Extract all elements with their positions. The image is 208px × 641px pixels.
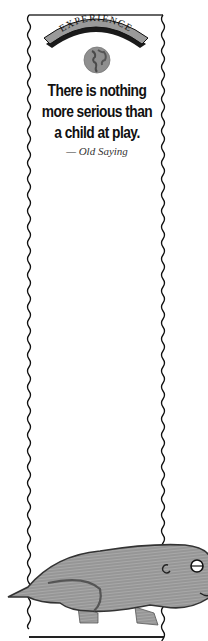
guinea-pig-illustration <box>0 515 208 635</box>
quote-line: There is nothing <box>39 80 154 101</box>
quote-attribution: — Old Saying <box>30 145 164 157</box>
quote-line: more serious than <box>39 101 154 122</box>
experience-banner: EXPERIENCE <box>40 2 152 48</box>
globe-icon <box>83 46 111 74</box>
quote-text: There is nothing more serious than a chi… <box>39 80 154 143</box>
quote-line: a child at play. <box>39 122 154 143</box>
